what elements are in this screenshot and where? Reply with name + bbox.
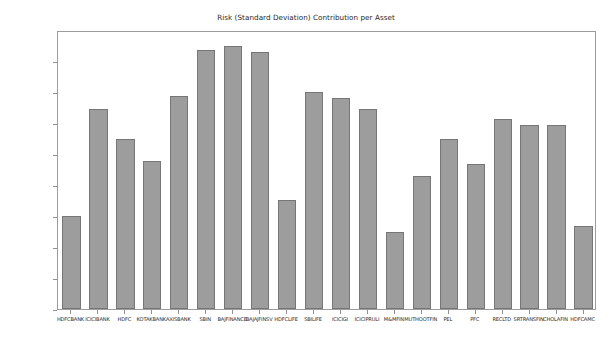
x-axis-tick-mark [313, 310, 314, 314]
bar [89, 109, 107, 309]
x-axis-tick-label: HDFCBANK [57, 316, 84, 322]
x-axis-tick-label: PEL [443, 316, 452, 322]
bar [413, 176, 431, 309]
bar [332, 98, 350, 309]
chart-title: Risk (Standard Deviation) Contribution p… [0, 13, 612, 22]
x-axis-tick-label: M&MFIN [384, 316, 404, 322]
x-axis-tick-label: HDFCLIFE [274, 316, 298, 322]
bar [440, 139, 458, 310]
x-axis-tick-label: CHOLAFIN [543, 316, 568, 322]
x-axis-tick-mark [205, 310, 206, 314]
x-axis-tick-label: SRTRANSFIN [514, 316, 544, 322]
x-axis-tick-label: HDFC [118, 316, 132, 322]
x-axis-tick-label: SBILIFE [304, 316, 322, 322]
x-axis-tick-mark [367, 310, 368, 314]
bars-layer [58, 32, 595, 309]
x-axis-tick-mark [394, 310, 395, 314]
x-axis-tick-label: PFC [470, 316, 479, 322]
bar [62, 216, 80, 309]
x-axis-tick-mark [340, 310, 341, 314]
x-axis-tick-label: BAJAJFINSV [246, 316, 273, 322]
x-axis-tick-label: ICICIPRULI [355, 316, 380, 322]
x-axis-tick-label: SBIN [199, 316, 210, 322]
bar [278, 200, 296, 309]
x-axis-tick-label: ICICIGI [332, 316, 348, 322]
bar [494, 119, 512, 309]
risk-contribution-bar-chart: Risk (Standard Deviation) Contribution p… [0, 0, 612, 349]
bar [224, 46, 242, 309]
x-axis-tick-mark [124, 310, 125, 314]
bar [116, 139, 134, 310]
x-axis-tick-label: ICICIBANK [85, 316, 109, 322]
y-axis: 2.2500%2.0000%1.7500%1.5000%1.2500%1.000… [0, 0, 57, 349]
x-axis-tick-mark [448, 310, 449, 314]
bar [305, 92, 323, 309]
x-axis-tick-mark [556, 310, 557, 314]
bar [520, 125, 538, 309]
bar [467, 164, 485, 309]
plot-area [57, 31, 596, 310]
x-axis-tick-mark [97, 310, 98, 314]
x-axis-tick-mark [232, 310, 233, 314]
x-axis-tick-label: KOTAKBANK [137, 316, 166, 322]
bar [197, 50, 215, 309]
x-axis-tick-label: BAJFINANCE [218, 316, 247, 322]
x-axis-tick-label: MUTHOOTFIN [404, 316, 437, 322]
bar [251, 52, 269, 309]
x-axis-tick-mark [151, 310, 152, 314]
bar [359, 109, 377, 309]
bar [574, 226, 592, 309]
x-axis-tick-mark [502, 310, 503, 314]
x-axis-tick-mark [178, 310, 179, 314]
x-axis-tick-mark [286, 310, 287, 314]
x-axis-tick-mark [583, 310, 584, 314]
bar [547, 125, 565, 309]
bar [386, 232, 404, 309]
x-axis: HDFCBANKICICIBANKHDFCKOTAKBANKAXISBANKSB… [57, 310, 596, 349]
x-axis-tick-mark [475, 310, 476, 314]
x-axis-tick-mark [259, 310, 260, 314]
x-axis-tick-mark [529, 310, 530, 314]
x-axis-tick-mark [421, 310, 422, 314]
x-axis-tick-label: HDFCAMC [570, 316, 595, 322]
x-axis-tick-mark [70, 310, 71, 314]
x-axis-tick-label: AXISBANK [166, 316, 191, 322]
bar [170, 96, 188, 309]
bar [143, 161, 161, 309]
x-axis-tick-label: RECLTD [492, 316, 511, 322]
